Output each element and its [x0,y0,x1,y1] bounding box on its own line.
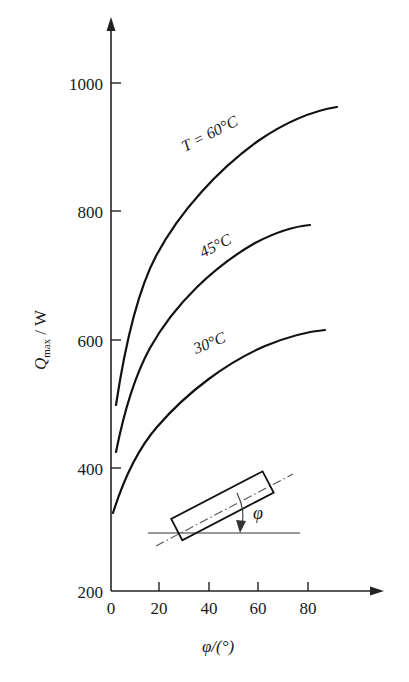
inset-angle-label: φ [253,503,263,523]
y-tick-label-200: 200 [78,583,104,602]
y-axis-arrowhead [107,17,116,31]
inset-angle-arc [237,493,243,524]
x-tick-labels: 0 20 40 60 80 [107,599,317,618]
y-tick-label-600: 600 [78,332,104,351]
x-tick-label-80: 80 [300,599,317,618]
curve-label-series-1: 45°C [197,230,234,260]
chart-svg: 1000 800 600 400 200 0 20 40 60 80 Qmax … [0,0,409,682]
y-axis-title-group: Qmax / W [31,309,52,370]
curve-series-0 [116,107,337,405]
y-axis-title: Qmax / W [31,309,52,370]
y-tick-label-1000: 1000 [69,75,103,94]
y-tick-labels: 1000 800 600 400 200 [69,75,103,602]
inset-angle-arrowhead [236,520,246,533]
curve-label-series-2: 30°C [190,329,228,358]
x-axis-arrowhead [370,587,384,596]
x-tick-label-40: 40 [201,599,218,618]
x-tick-label-20: 20 [151,599,168,618]
x-tick-label-60: 60 [250,599,267,618]
y-axis-unit: W [31,309,50,326]
heat-pipe-inclination-diagram: φ [148,471,300,546]
x-axis-title: φ/(°) [202,637,235,656]
y-axis-symbol: Q [31,358,50,370]
axes-group [107,17,385,596]
y-axis-subscript: max [40,338,52,357]
series-labels: T = 60°C 45°C 30°C [179,112,241,357]
y-tick-label-400: 400 [78,460,104,479]
y-axis-separator: / [31,326,50,339]
curve-label-series-0: T = 60°C [179,112,241,155]
chart-figure: 1000 800 600 400 200 0 20 40 60 80 Qmax … [0,0,409,682]
y-tick-label-800: 800 [78,203,104,222]
x-tick-label-0: 0 [107,599,116,618]
series-curves [113,107,337,513]
inset-dash-dot-centerline [156,474,293,546]
